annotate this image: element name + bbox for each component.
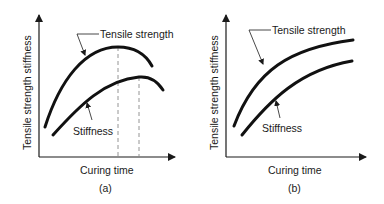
x-axis-label: Curing time bbox=[80, 164, 134, 176]
y-axis-label: Tensile strength stiffness bbox=[208, 35, 220, 150]
tensile-leader bbox=[249, 30, 271, 64]
stiffness-label: Stiffness bbox=[262, 122, 302, 134]
x-axis-label: Curing time bbox=[268, 164, 322, 176]
panel-caption: (b) bbox=[288, 182, 301, 194]
y-axis-label: Tensile strength stiffness bbox=[21, 35, 33, 150]
tensile-label: Tensile strength bbox=[272, 24, 346, 36]
panel-b: Tensile strength Stiffness Tensile stren… bbox=[208, 15, 366, 194]
stiffness-leader bbox=[87, 103, 92, 120]
panel-a: Tensile strength Stiffness Tensile stren… bbox=[21, 15, 175, 194]
figure: Tensile strength Stiffness Tensile stren… bbox=[0, 0, 384, 204]
tensile-strength-curve bbox=[45, 47, 152, 127]
stiffness-label: Stiffness bbox=[73, 125, 113, 137]
stiffness-leader bbox=[276, 101, 280, 118]
panel-caption: (a) bbox=[99, 182, 112, 194]
tensile-label: Tensile strength bbox=[100, 28, 174, 40]
